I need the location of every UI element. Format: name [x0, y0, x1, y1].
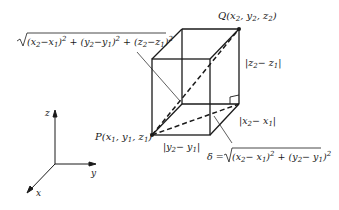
bottom-left-connector	[152, 104, 182, 135]
svg-text:δ =: δ =	[207, 151, 224, 162]
y-axis-arrow-icon	[89, 162, 96, 166]
z-axis-arrow-icon	[53, 110, 57, 117]
x-axis-arrow-icon	[27, 186, 33, 193]
point-Q	[237, 27, 241, 31]
bottom-right-connector	[210, 104, 239, 135]
front-face	[152, 59, 210, 135]
diagonal-formula-label: (x2−x1)2 + (y2−y1)2 + (z2−z1)2	[17, 33, 173, 49]
z-axis-label: z	[44, 108, 50, 118]
x-axis-label: x	[36, 188, 41, 198]
z-edge-label: |z2− z1|	[245, 57, 281, 70]
coordinate-axes	[27, 110, 96, 193]
point-Q-label: Q(x2, y2, z2)	[218, 10, 277, 23]
distance-3d-diagram: (x2−x1)2 + (y2−y1)2 + (z2−z1)2 Q(x2, y2,…	[0, 0, 339, 210]
svg-text:(x2−x1)2 + (y2−y1)2 + (z2−z1): (x2−x1)2 + (y2−y1)2 + (z2−z1)2	[27, 35, 173, 49]
leader-delta	[214, 116, 232, 143]
x-edge-label: |x2− x1|	[239, 115, 276, 128]
svg-text:(x2− x1)2 + (y2− y1)2: (x2− x1)2 + (y2− y1)2	[232, 150, 332, 164]
x-axis	[30, 164, 55, 190]
point-P-label: P(x1, y1, z1)	[94, 131, 152, 144]
delta-formula-label: δ = (x2− x1)2 + (y2− y1)2	[207, 148, 332, 164]
y-edge-label: |y2− y1|	[163, 141, 200, 154]
y-axis-label: y	[90, 168, 97, 178]
right-angle-marker	[230, 95, 239, 104]
